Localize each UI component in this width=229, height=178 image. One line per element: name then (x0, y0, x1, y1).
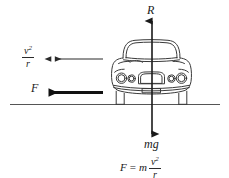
fraction-numerator: v2 (22, 44, 34, 58)
headlight-inner-right (168, 75, 175, 82)
headlight-inner-left (128, 75, 135, 82)
headlight-outer-right (176, 73, 186, 83)
label-force-F: F (31, 82, 38, 94)
equation-numerator-exponent: 2 (155, 155, 159, 163)
equation-centripetal-force: F = m v2 r (120, 155, 161, 178)
headlight-outer-left (116, 73, 126, 83)
equation-fraction: v2 r (149, 155, 161, 178)
diagram-canvas: R mg F v2 r F = m v2 r (0, 0, 229, 178)
equation-mass-symbol: m (139, 162, 147, 173)
label-weight: mg (144, 138, 159, 150)
car-wheel-left (116, 91, 124, 104)
equation-equals-sign: = (129, 162, 137, 173)
acceleration-arrow-v2-over-r (45, 56, 104, 62)
equation-numerator: v2 (149, 155, 161, 169)
equation-denominator: r (149, 169, 161, 178)
label-v-squared-over-r: v2 r (22, 44, 34, 69)
numerator-exponent: 2 (28, 44, 32, 52)
equation-lhs: F (120, 162, 127, 173)
fraction-v2-over-r: v2 r (22, 44, 34, 69)
fraction-denominator: r (22, 58, 34, 70)
car-wheel-right (179, 91, 187, 104)
label-normal-reaction: R (147, 4, 154, 16)
